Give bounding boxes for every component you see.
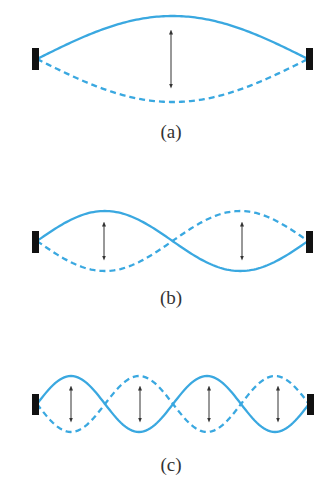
right-fixed-support xyxy=(307,394,314,415)
panel-label-b: (b) xyxy=(141,288,201,307)
panel-label-c: (c) xyxy=(141,455,201,474)
left-fixed-support xyxy=(32,48,39,70)
string-dashed-wave xyxy=(37,59,308,102)
panel-second-harmonic xyxy=(32,211,313,271)
panel-fourth-harmonic xyxy=(32,376,314,432)
string-dashed-wave xyxy=(37,376,309,432)
left-fixed-support xyxy=(32,231,39,253)
string-solid-wave xyxy=(37,16,308,59)
panel-fundamental-mode xyxy=(32,16,313,102)
right-fixed-support xyxy=(306,231,313,253)
panel-label-a: (a) xyxy=(141,122,201,141)
right-fixed-support xyxy=(306,48,313,70)
standing-wave-diagram xyxy=(0,0,331,493)
string-dashed-wave xyxy=(37,211,308,271)
left-fixed-support xyxy=(32,394,39,415)
